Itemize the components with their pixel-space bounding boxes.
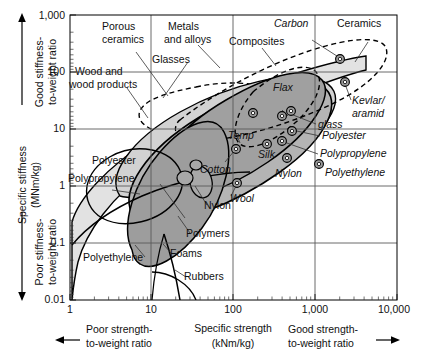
point-label-temp: Temp [228,129,254,141]
region-label-composites: Composites [229,35,284,47]
region-label-polymers: Polymers [186,227,230,239]
region-label-porous-ceramics-line1: Porous [102,20,135,32]
point-label-silk: Silk [258,148,276,160]
ashby-chart-figure: 1 10 100 1,000 10,000 0.01 0.1 1 10 100 … [0,0,421,360]
point-label-polyester-pt: Polyester [322,129,366,141]
region-label-nylon-region: Nylon [204,199,231,211]
region-label-foams: Foams [170,247,202,259]
region-label-polypropylene-region: Polypropylene [68,172,135,184]
arrow-down-icon [18,292,26,301]
region-label-ceramics: Ceramics [337,17,381,29]
annotation-poor-strength: Poor strength- to-weight ratio [55,323,153,349]
x-tick-label-10: 10 [145,303,157,315]
annotation-poor-strength-line1: Poor strength- [86,323,153,335]
point-label-polypropylene-pt: Polypropylene [320,147,387,159]
x-axis-title: Specific strength (kNm/kg) [194,322,272,349]
point-label-kevlar-line2: aramid [352,107,385,119]
region-label-porous-ceramics-line2: ceramics [102,33,144,45]
x-tick-label-1000: 1,000 [302,303,328,315]
data-point-polyethylene[interactable] [315,160,324,169]
region-label-glasses: Glasses [152,53,190,65]
region-label-wood-line1: Wood and [75,65,123,77]
point-label-polyethylene-pt: Polyethylene [325,166,385,178]
data-point-carbon[interactable] [336,55,345,64]
annotation-good-stiffness-line2: to-weight ratio [46,39,58,105]
data-point-temp[interactable] [249,109,258,118]
region-label-metals-line2: and alloys [164,33,211,45]
polymer-sub-blob-1 [177,171,193,185]
annotation-poor-stiffness: Poor stiffness- to-weight ratio [18,212,58,301]
point-label-kevlar-line1: Kevlar/ [352,94,386,106]
point-label-nylon-pt: Nylon [275,167,302,179]
point-label-wool: Wool [230,192,255,204]
x-axis-unit-text: (kNm/kg) [212,337,255,349]
x-tick-labels: 1 10 100 1,000 10,000 [67,303,410,315]
data-point-nylon[interactable] [283,154,292,163]
point-label-cotton: Cotton [200,163,231,175]
y-axis-title: Specific stiffness (MNm/kg) [16,146,41,224]
data-point-cotton[interactable] [232,145,241,154]
point-label-flax: Flax [273,81,294,93]
y-tick-label-10: 10 [53,122,65,134]
annotation-good-strength-line1: Good strength- [288,323,359,335]
region-label-polyethylene-region: Polyethylene [83,251,143,263]
x-tick-label-100: 100 [224,303,242,315]
annotation-poor-strength-line2: to-weight ratio [86,337,152,349]
x-axis-title-text: Specific strength [194,322,272,334]
data-point-polypropylene[interactable] [278,137,287,146]
y-tick-label-1: 1 [59,179,65,191]
x-tick-label-1: 1 [67,303,73,315]
region-label-polyester-region: Polyester [92,154,136,166]
data-point-glass-fibre[interactable] [278,112,287,121]
point-label-carbon: Carbon [274,17,309,29]
annotation-good-strength-line2: to-weight ratio [288,337,354,349]
ashby-chart-svg: 1 10 100 1,000 10,000 0.01 0.1 1 10 100 … [0,0,421,360]
data-point-wool[interactable] [233,179,242,188]
arrow-left-icon [55,336,64,344]
annotation-good-stiffness: Good stiffness- to-weight ratio [18,13,58,107]
arrow-up-icon [18,13,26,22]
arrow-right-icon [391,336,400,344]
annotation-poor-stiffness-line2: to-weight ratio [46,219,58,285]
data-point-polyester[interactable] [288,127,297,136]
region-label-wood-line2: wood products [68,78,137,90]
annotation-good-strength: Good strength- to-weight ratio [288,323,400,349]
y-tick-label-1000: 1,000 [39,9,65,21]
annotation-good-stiffness-line1: Good stiffness- [33,36,45,107]
annotation-poor-stiffness-line1: Poor stiffness- [33,218,45,285]
data-point-flax[interactable] [287,107,296,116]
x-tick-label-10000: 10,000 [378,303,410,315]
region-label-metals-line1: Metals [168,20,199,32]
region-label-rubbers: Rubbers [184,270,224,282]
y-tick-label-0.01: 0.01 [45,293,66,305]
y-axis-unit-text: (MNm/kg) [29,162,41,208]
data-point-kevlar-aramid[interactable] [341,78,350,87]
